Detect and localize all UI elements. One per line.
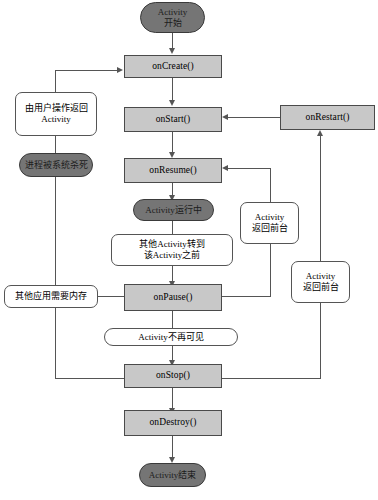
node-activity-start: Activity 开始 [140, 2, 205, 33]
node-note-user-return: 由用户操作返回 Activity [15, 92, 97, 136]
edge-process-killed-to-note-user-return [55, 136, 56, 153]
edge-onstop-right-segment [222, 378, 321, 379]
note-other-activity-line2: 该Activity之前 [144, 250, 201, 261]
node-note-memory-needed: 其他应用需要内存 [4, 285, 98, 308]
edge-onpause-to-note-notvisible [172, 311, 173, 328]
activity-start-line1: Activity [158, 7, 188, 18]
node-note-foreground-top: Activity 返回前台 [240, 202, 299, 244]
note-foreground-top-line2: 返回前台 [252, 223, 288, 234]
edge-note-user-return-to-oncreate [55, 70, 118, 71]
node-note-foreground-bottom: Activity 返回前台 [291, 261, 350, 303]
edge-note-user-return-riser [55, 70, 56, 92]
note-user-return-line1: 由用户操作返回 [25, 103, 88, 114]
activity-lifecycle-diagram: Activity 开始 onCreate() onStart() onResum… [0, 0, 378, 500]
note-foreground-bottom-line2: 返回前台 [303, 282, 339, 293]
arrowhead-oncreate-from-return [117, 67, 123, 73]
node-onpause: onPause() [124, 284, 222, 311]
node-onstart: onStart() [124, 107, 222, 132]
activity-start-line2: 开始 [164, 18, 182, 29]
node-process-killed: 进程被系统杀死 [19, 153, 93, 177]
node-activity-running: Activity运行中 [133, 199, 214, 221]
node-onresume: onResume() [124, 158, 222, 183]
arrowhead-onstart [169, 100, 175, 106]
edge-onrestart-to-onstart [228, 117, 280, 118]
node-oncreate: onCreate() [124, 55, 222, 78]
edge-oncreate-to-onstart [172, 78, 173, 101]
edge-ondestroy-to-end [172, 436, 173, 458]
edge-onstop-to-note-memory-riser [55, 308, 56, 378]
edge-onpause-to-onresume-entry [228, 168, 271, 169]
node-note-other-activity: 其他Activity转到 该Activity之前 [111, 234, 233, 266]
node-note-not-visible: Activity不再可见 [104, 328, 238, 346]
note-user-return-line2: Activity [41, 114, 71, 125]
edge-onstop-to-onrestart-riser [320, 136, 321, 378]
edge-start-to-oncreate [172, 32, 173, 49]
edge-onpause-to-note-memory [98, 296, 124, 297]
edge-onpause-right-segment [222, 296, 271, 297]
arrowhead-oncreate [169, 48, 175, 54]
note-foreground-bottom-line1: Activity [306, 271, 336, 282]
note-foreground-top-line1: Activity [255, 212, 285, 223]
edge-onstart-to-onresume [172, 132, 173, 153]
node-ondestroy: onDestroy() [124, 410, 222, 436]
edge-onstop-to-ondestroy [172, 388, 173, 409]
edge-running-to-note-other [172, 221, 173, 234]
edge-onstop-left-segment [55, 378, 124, 379]
arrowhead-onresume-from-pause [222, 165, 228, 171]
edge-note-memory-to-process-killed [55, 177, 56, 285]
node-onstop: onStop() [124, 364, 222, 388]
arrowhead-onrestart [317, 130, 323, 136]
arrowhead-onstart-from-restart [222, 114, 228, 120]
note-other-activity-line1: 其他Activity转到 [139, 239, 205, 250]
node-activity-end: Activity结束 [139, 463, 206, 487]
node-onrestart: onRestart() [280, 105, 375, 130]
